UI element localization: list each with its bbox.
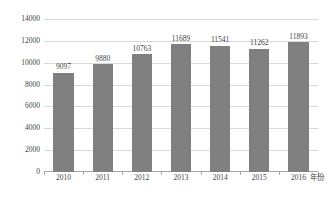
bar[interactable]: 9097 (53, 73, 73, 172)
y-axis-tick-label: 4000 (0, 125, 40, 133)
bar-value-label: 11893 (289, 33, 307, 41)
bar[interactable]: 9880 (93, 64, 113, 172)
bar-value-label: 10763 (132, 45, 151, 53)
y-axis-tick-label: 14000 (0, 15, 40, 23)
y-axis-tick-label: 2000 (0, 146, 40, 154)
bar-value-label: 11541 (211, 36, 229, 44)
bar-slot: 9097 (44, 19, 83, 172)
bar-slot: 11893 (279, 19, 318, 172)
bar-chart: 909798801076311689115411126211893 020004… (0, 0, 336, 202)
y-axis-tick-label: 0 (0, 168, 40, 176)
bar-series: 909798801076311689115411126211893 (44, 19, 318, 172)
bar[interactable]: 11262 (249, 49, 269, 172)
bar[interactable]: 11893 (288, 42, 308, 172)
y-axis-tick-label: 12000 (0, 37, 40, 45)
bar[interactable]: 11541 (210, 46, 230, 172)
x-axis-tick-label: 2015 (240, 174, 279, 182)
plot-area: 909798801076311689115411126211893 (44, 19, 318, 172)
x-axis-tick-label: 2012 (122, 174, 161, 182)
y-axis-tick-label: 10000 (0, 59, 40, 67)
bar-slot: 9880 (83, 19, 122, 172)
bar-value-label: 9097 (56, 63, 71, 71)
bar[interactable]: 10763 (132, 54, 152, 172)
bar-slot: 11541 (201, 19, 240, 172)
y-axis-tick-label: 6000 (0, 103, 40, 111)
bar-value-label: 11689 (172, 35, 190, 43)
x-axis-tick-labels: 2010201120122013201420152016 (44, 174, 318, 182)
bar[interactable]: 11689 (171, 44, 191, 172)
x-axis-tick-label: 2014 (201, 174, 240, 182)
bar-slot: 10763 (122, 19, 161, 172)
x-axis-title: 年份 (310, 174, 324, 182)
bar-value-label: 9880 (95, 55, 110, 63)
bar-slot: 11262 (240, 19, 279, 172)
x-axis-tick-label: 2010 (44, 174, 83, 182)
x-axis-tick-label: 2013 (161, 174, 200, 182)
bar-value-label: 11262 (250, 39, 268, 47)
y-axis-tick-label: 8000 (0, 81, 40, 89)
x-axis-tick-label: 2011 (83, 174, 122, 182)
bar-slot: 11689 (161, 19, 200, 172)
